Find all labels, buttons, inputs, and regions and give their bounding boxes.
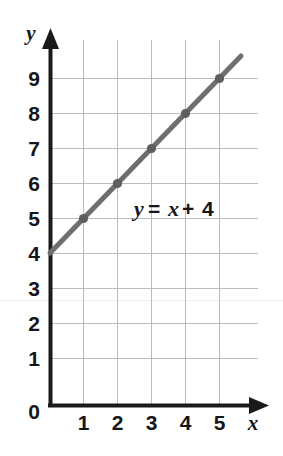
x-tick-label-1: 1 <box>78 411 90 434</box>
chart-background <box>0 0 283 456</box>
y-tick-label-6: 6 <box>28 172 40 195</box>
equation-plus-sign: + <box>182 197 194 220</box>
x-tick-label-2: 2 <box>112 411 124 434</box>
y-tick-label-2: 2 <box>28 312 40 335</box>
y-tick-label-7: 7 <box>28 137 40 160</box>
y-tick-label-9: 9 <box>28 67 40 90</box>
x-axis-label: x <box>247 411 259 435</box>
x-tick-label-5: 5 <box>214 411 226 434</box>
x-tick-label-4: 4 <box>180 411 192 434</box>
data-point-4-8 <box>181 109 190 118</box>
linear-graph-figure: 9 8 7 6 5 4 3 2 1 0 1 2 3 4 5 y x y = x … <box>0 0 283 456</box>
y-tick-label-4: 4 <box>28 242 40 265</box>
data-point-1-5 <box>79 214 88 223</box>
origin-label-0: 0 <box>28 400 40 423</box>
graph-svg: 9 8 7 6 5 4 3 2 1 0 1 2 3 4 5 y x y = x … <box>0 0 283 456</box>
y-tick-label-5: 5 <box>28 207 40 230</box>
data-point-5-9 <box>215 74 224 83</box>
y-tick-label-3: 3 <box>28 277 40 300</box>
y-tick-label-1: 1 <box>28 347 40 370</box>
x-tick-label-3: 3 <box>146 411 158 434</box>
equation-annotation: y = x + 4 <box>131 196 214 221</box>
y-tick-label-8: 8 <box>28 102 40 125</box>
data-point-2-6 <box>113 179 122 188</box>
equation-constant: 4 <box>202 197 214 220</box>
equation-rhs-variable: x <box>167 196 179 221</box>
equation-equals-sign: = <box>148 197 160 220</box>
data-point-3-7 <box>147 144 156 153</box>
